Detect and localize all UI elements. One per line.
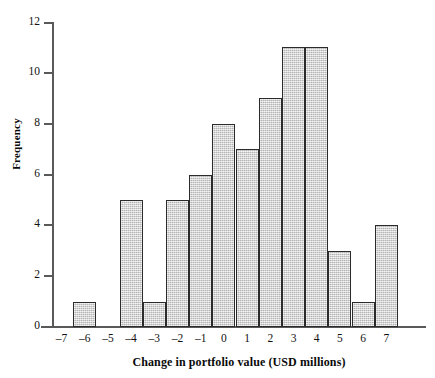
x-tick-label--4: –4 bbox=[119, 332, 143, 344]
x-tick-label--5: –5 bbox=[96, 332, 120, 344]
bar-6 bbox=[352, 302, 375, 327]
histogram-figure: 0 2 4 6 8 10 12 –7–6–5–4–3–2–101234567 F… bbox=[0, 0, 435, 378]
bar-series bbox=[0, 0, 435, 378]
x-tick-label--2: –2 bbox=[166, 332, 190, 344]
x-tick-label-1: 1 bbox=[235, 332, 259, 344]
x-tick-label-6: 6 bbox=[351, 332, 375, 344]
bar-7 bbox=[375, 225, 398, 327]
x-tick-label-3: 3 bbox=[282, 332, 306, 344]
x-tick-label-7: 7 bbox=[374, 332, 398, 344]
bar--6 bbox=[73, 302, 96, 327]
bar--1 bbox=[189, 175, 212, 328]
x-tick-label--6: –6 bbox=[73, 332, 97, 344]
y-axis-title: Frequency bbox=[10, 101, 22, 187]
bar--2 bbox=[166, 200, 189, 327]
x-tick-label-4: 4 bbox=[305, 332, 329, 344]
x-tick-label-0: 0 bbox=[212, 332, 236, 344]
bar-2 bbox=[259, 98, 282, 327]
bar--3 bbox=[143, 302, 166, 327]
bar-4 bbox=[305, 47, 328, 327]
bar-0 bbox=[212, 124, 235, 327]
x-tick-label--1: –1 bbox=[189, 332, 213, 344]
bar--4 bbox=[120, 200, 143, 327]
x-tick-label-5: 5 bbox=[328, 332, 352, 344]
x-axis-title: Change in portfolio value (USD millions) bbox=[52, 355, 426, 370]
bar-3 bbox=[282, 47, 305, 327]
x-tick-label-2: 2 bbox=[258, 332, 282, 344]
bar-1 bbox=[236, 149, 259, 327]
x-tick-label--3: –3 bbox=[142, 332, 166, 344]
bar-5 bbox=[328, 251, 351, 327]
x-tick-label--7: –7 bbox=[50, 332, 74, 344]
